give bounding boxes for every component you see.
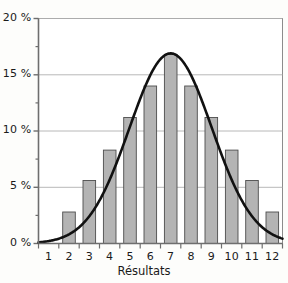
bar-2 — [63, 212, 76, 244]
y-tick-label-20: 20 % — [3, 11, 32, 24]
bar-8 — [185, 86, 198, 244]
x-tick-label-8: 8 — [181, 250, 201, 263]
x-tick-label-3: 3 — [79, 250, 99, 263]
bar-7 — [164, 55, 177, 244]
bar-10 — [225, 150, 238, 243]
x-tick-label-11: 11 — [242, 250, 262, 263]
x-tick-label-12: 12 — [262, 250, 282, 263]
x-tick-label-10: 10 — [222, 250, 242, 263]
x-tick-label-9: 9 — [201, 250, 221, 263]
x-axis-title: Résultats — [0, 264, 288, 278]
bar-4 — [103, 150, 116, 243]
x-tick-label-7: 7 — [161, 250, 181, 263]
x-tick-label-4: 4 — [100, 250, 120, 263]
bar-12 — [266, 212, 279, 244]
chart-plot-area — [0, 0, 288, 283]
x-tick-label-6: 6 — [140, 250, 160, 263]
x-tick-label-5: 5 — [120, 250, 140, 263]
bar-6 — [144, 86, 157, 244]
x-tick-label-2: 2 — [59, 250, 79, 263]
y-tick-label-0: 0 % — [10, 236, 32, 249]
chart-figure: 0 %5 %10 %15 %20 % 123456789101112 Résul… — [0, 0, 288, 283]
y-tick-label-10: 10 % — [3, 123, 32, 136]
y-tick-label-5: 5 % — [10, 179, 32, 192]
x-tick-label-1: 1 — [39, 250, 59, 263]
y-tick-label-15: 15 % — [3, 67, 32, 80]
